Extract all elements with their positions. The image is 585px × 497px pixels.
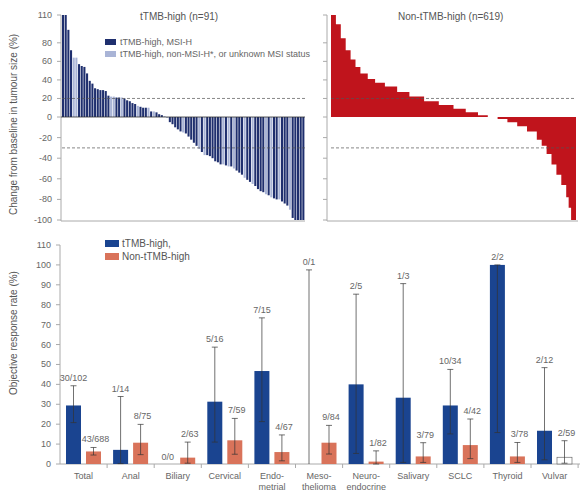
waterfall-bar	[150, 111, 152, 117]
waterfall-bar	[131, 103, 133, 117]
bar-label: 2/2	[491, 252, 504, 262]
waterfall-bar	[265, 117, 267, 194]
bar-label: 2/5	[350, 281, 363, 291]
y-tick-label: 60	[41, 340, 51, 350]
waterfall-bar	[123, 98, 125, 117]
waterfall-bar	[97, 89, 99, 117]
waterfall-bar	[289, 117, 291, 210]
y-tick-label: -40	[39, 153, 52, 163]
waterfall-bar	[118, 98, 120, 117]
bar-label: 7/59	[228, 405, 246, 415]
waterfall-bar	[273, 117, 275, 198]
waterfall-bar	[238, 117, 240, 173]
y-tick-label: 60	[42, 56, 52, 66]
y-tick-label: 0	[47, 112, 52, 122]
waterfall-bar	[244, 117, 246, 178]
legend-label-tmb-high: tTMB-high,	[122, 238, 171, 249]
bar-label: 4/42	[464, 406, 482, 416]
category-label: SCLC	[448, 471, 473, 481]
waterfall-bar	[102, 90, 104, 117]
waterfall-bar	[179, 117, 181, 131]
waterfall-bar	[276, 117, 278, 199]
y-tick-label: 10	[41, 439, 51, 449]
bar-label: 30/102	[60, 373, 88, 383]
waterfall-bar	[300, 117, 302, 220]
y-tick-label: -60	[39, 174, 52, 184]
waterfall-bar	[121, 98, 123, 117]
legend-label-non-tmb-high: Non-tTMB-high	[122, 251, 190, 262]
y-tick-label: 20	[41, 419, 51, 429]
waterfall-area	[331, 15, 576, 220]
waterfall-bar	[222, 117, 224, 164]
waterfall-bar	[225, 117, 227, 165]
waterfall-bar	[182, 117, 184, 132]
bar-label: 1/3	[397, 271, 410, 281]
waterfall-bar	[260, 117, 262, 191]
waterfall-bar	[129, 101, 131, 117]
y-tick-label: 80	[41, 300, 51, 310]
waterfall-bar	[206, 117, 208, 155]
waterfall-bar	[89, 81, 91, 117]
waterfall-bar	[209, 117, 211, 156]
category-label: Anal	[122, 471, 140, 481]
waterfall-bar	[241, 117, 243, 175]
waterfall-bar	[286, 117, 288, 206]
waterfall-bar	[254, 117, 256, 186]
y-tick-label: 90	[41, 280, 51, 290]
bottom-ylabel: Objective response rate (%)	[8, 271, 19, 395]
waterfall-bar	[270, 117, 272, 197]
waterfall-non-tmb-high	[323, 15, 578, 221]
category-label: Meso-	[307, 471, 332, 481]
category-label: endocrine	[346, 482, 386, 492]
bar-label: 0/0	[161, 452, 174, 462]
waterfall-bar	[73, 58, 75, 117]
y-tick-label: 100	[36, 260, 51, 270]
figure: 110806040200-20-40-60-80-100 01020304050…	[0, 0, 585, 497]
waterfall-bar	[249, 117, 251, 182]
top-ylabel: Change from baseline in tumour size (%)	[8, 34, 19, 215]
waterfall-bar	[196, 117, 198, 146]
waterfall-bar	[139, 107, 141, 117]
waterfall-bar	[292, 117, 294, 218]
waterfall-bar	[70, 50, 72, 117]
waterfall-bar	[185, 117, 187, 133]
waterfall-bar	[204, 117, 206, 155]
waterfall-bar	[78, 64, 80, 117]
waterfall-bar	[201, 117, 203, 152]
waterfall-bar	[212, 117, 214, 158]
category-label: Cervical	[209, 471, 242, 481]
waterfall-bar	[83, 67, 85, 117]
waterfall-bar	[217, 117, 219, 162]
waterfall-bar	[153, 111, 155, 117]
bar-label: 2/12	[536, 355, 554, 365]
waterfall-bar	[171, 117, 173, 124]
bar-label: 0/1	[303, 257, 316, 267]
waterfall-bar	[284, 117, 286, 204]
waterfall-bar	[278, 117, 280, 199]
category-label: Vulvar	[542, 471, 567, 481]
y-tick-label: 40	[42, 75, 52, 85]
waterfall-bar	[233, 117, 235, 169]
bar-label: 7/15	[253, 305, 271, 315]
waterfall-bar	[169, 117, 171, 122]
waterfall-bar	[198, 117, 200, 149]
bar-label: 4/67	[275, 422, 293, 432]
waterfall-bar	[81, 66, 83, 117]
waterfall-bar	[99, 90, 101, 117]
bar-label: 43/688	[82, 434, 110, 444]
bar-label: 2/59	[558, 428, 576, 438]
waterfall-bar	[94, 88, 96, 117]
orr-bar-chart: 0102030405060708090100110Total30/10243/6…	[36, 240, 580, 492]
waterfall-bar	[281, 117, 283, 201]
y-tick-label: 70	[41, 320, 51, 330]
category-label: Endo-	[260, 471, 284, 481]
waterfall-bar	[177, 117, 179, 129]
waterfall-bar	[174, 117, 176, 127]
legend-label-msi-h: tTMB-high, MSI-H	[120, 37, 192, 47]
waterfall-bar	[214, 117, 216, 161]
bar-label: 8/75	[134, 411, 152, 421]
y-tick-label: 0	[46, 459, 51, 469]
y-tick-label: -80	[39, 194, 52, 204]
bar-label: 3/79	[416, 430, 434, 440]
waterfall-bar	[86, 73, 88, 117]
